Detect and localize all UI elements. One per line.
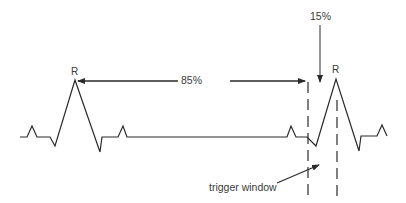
r-peak-label-right: R bbox=[332, 65, 339, 75]
trigger-window-label: trigger window bbox=[209, 182, 277, 193]
interval-85-label: 85% bbox=[181, 75, 202, 86]
interval-15-label: 15% bbox=[310, 11, 331, 22]
trigger-window-pointer-arrow bbox=[277, 165, 319, 183]
r-peak-label-left: R bbox=[71, 67, 78, 77]
ecg-gating-diagram bbox=[0, 0, 406, 203]
ecg-waveform bbox=[20, 79, 387, 152]
